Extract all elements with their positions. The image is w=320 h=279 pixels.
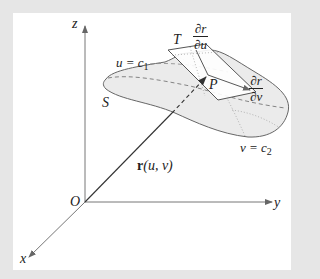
surface-label: S — [102, 96, 109, 110]
partial-v-denominator: ∂v — [249, 90, 263, 103]
u-curve-subscript: 1 — [144, 61, 149, 72]
y-axis-label: y — [274, 196, 280, 210]
z-axis-label: z — [72, 17, 77, 31]
position-vector-args: (u, v) — [143, 158, 173, 173]
x-axis-label: x — [20, 252, 26, 266]
position-vector-label: r(u, v) — [137, 159, 173, 173]
v-curve-subscript: 2 — [267, 146, 272, 157]
partial-u-denominator: ∂u — [193, 38, 208, 51]
tangent-plane-label: T — [173, 33, 181, 47]
partial-v-label: ∂r ∂v — [249, 74, 263, 103]
partial-u-label: ∂r ∂u — [193, 22, 208, 51]
v-curve-text: v = c — [240, 140, 267, 155]
partial-u-numerator: ∂r — [193, 22, 208, 35]
x-axis — [29, 202, 85, 257]
point-label: P — [209, 78, 218, 92]
u-curve-text: u = c — [116, 55, 144, 70]
origin-label: O — [70, 195, 80, 209]
u-curve-label: u = c1 — [116, 56, 149, 72]
v-curve-label: v = c2 — [240, 141, 272, 157]
partial-v-numerator: ∂r — [249, 74, 263, 87]
